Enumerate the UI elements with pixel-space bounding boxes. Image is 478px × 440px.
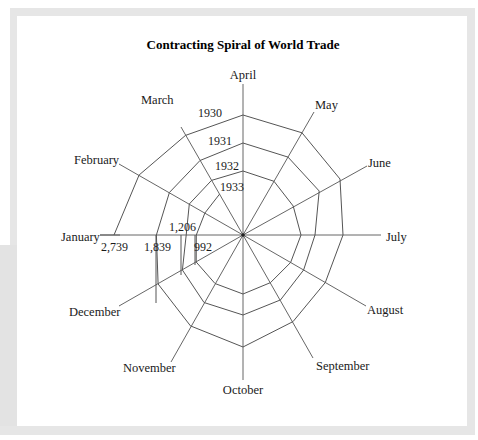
axis-label-october: October — [223, 383, 264, 397]
axis-label-june: June — [368, 156, 391, 170]
year-label-1933: 1933 — [220, 180, 244, 194]
axis-label-january: January — [61, 230, 101, 244]
axis-label-november: November — [123, 361, 177, 375]
axis-label-march: March — [141, 93, 174, 107]
axis-august — [243, 235, 366, 306]
axis-label-may: May — [315, 98, 339, 112]
axis-label-april: April — [230, 68, 257, 82]
year-label-1930: 1930 — [198, 106, 222, 120]
jan-value-1931: 1,839 — [144, 240, 171, 254]
axis-label-july: July — [386, 230, 408, 244]
spiral-chart: Contracting Spiral of World Trade April … — [0, 0, 478, 440]
month-axes — [100, 84, 381, 380]
chart-title: Contracting Spiral of World Trade — [147, 37, 340, 52]
jan-value-1932: 1,206 — [169, 220, 196, 234]
axis-september — [243, 235, 313, 358]
year-label-1931: 1931 — [208, 134, 232, 148]
jan-value-1933: 992 — [194, 240, 212, 254]
year-label-1932: 1932 — [215, 159, 239, 173]
axis-label-september: September — [316, 359, 370, 373]
axis-label-february: February — [74, 153, 120, 167]
axis-label-december: December — [69, 305, 121, 319]
axis-label-august: August — [367, 303, 404, 317]
trade-spiral — [114, 115, 343, 347]
jan-value-1930: 2,739 — [101, 240, 128, 254]
center-point — [241, 233, 245, 237]
spiral-line — [114, 115, 343, 347]
axis-june — [243, 166, 367, 235]
